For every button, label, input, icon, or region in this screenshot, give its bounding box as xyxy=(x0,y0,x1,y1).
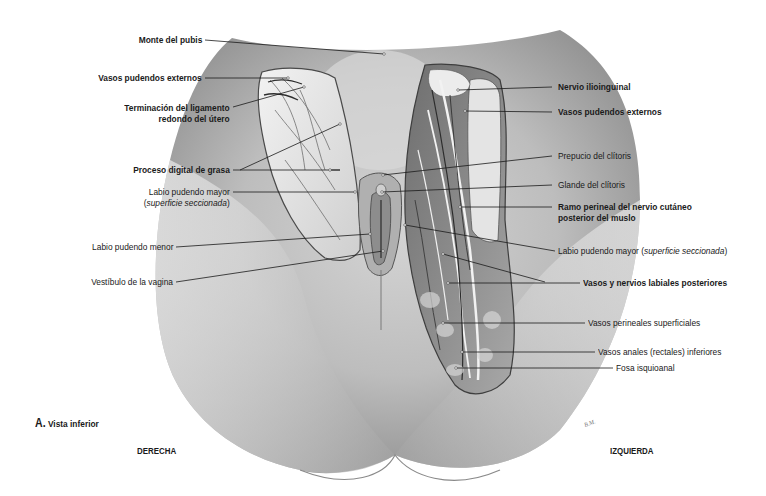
label-labio-menor: Labio pudendo menor xyxy=(92,241,173,252)
superficie-seccionada-text: superficie seccionada xyxy=(147,197,227,208)
label-prepucio: Prepucio del clítoris xyxy=(558,150,631,161)
label-proceso-digital: Proceso digital de grasa xyxy=(133,164,230,175)
label-vasos-nervios-labiales: Vasos y nervios labiales posteriores xyxy=(583,277,727,288)
figure-caption: A. Vista inferior xyxy=(35,416,99,430)
orientation-izquierda: IZQUIERDA xyxy=(610,446,654,456)
label-glande: Glande del clítoris xyxy=(558,179,625,190)
caption-letter: A. xyxy=(35,416,46,430)
caption-text: Vista inferior xyxy=(48,418,99,429)
labio-mayor-izq-text: Labio pudendo mayor ( xyxy=(558,245,644,256)
label-vasos-perineales: Vasos perineales superficiales xyxy=(588,317,700,328)
label-labio-mayor-derecha: Labio pudendo mayor (superficie secciona… xyxy=(144,186,230,208)
label-vasos-pudendos-externos-izquierda: Vasos pudendos externos xyxy=(558,106,662,117)
label-vasos-pudendos-externos-derecha: Vasos pudendos externos xyxy=(98,72,202,83)
label-monte-pubis: Monte del pubis xyxy=(138,34,202,45)
label-labio-mayor-der-line1: Labio pudendo mayor xyxy=(144,186,230,197)
orientation-derecha: DERECHA xyxy=(137,446,176,456)
label-ramo-line1: Ramo perineal del nervio cutáneo xyxy=(558,201,692,212)
paren-close: ) xyxy=(227,197,230,208)
label-ligamento-redondo: Terminación del ligamento redondo del út… xyxy=(125,102,230,124)
label-fosa-isquioanal: Fosa isquioanal xyxy=(616,362,675,373)
label-labio-mayor-der-line2: (superficie seccionada) xyxy=(144,197,230,208)
label-nervio-ilioinguinal: Nervio ilioinguinal xyxy=(558,81,630,92)
label-vestibulo: Vestíbulo de la vagina xyxy=(91,276,173,287)
label-vasos-anales: Vasos anales (rectales) inferiores xyxy=(598,346,721,357)
label-ligamento-line2: redondo del útero xyxy=(125,113,230,124)
label-ramo-perineal: Ramo perineal del nervio cutáneo posteri… xyxy=(558,201,692,223)
labio-mayor-izq-italic: superficie seccionada xyxy=(644,245,724,256)
artist-signature: B.M. xyxy=(583,418,596,428)
label-ramo-line2: posterior del muslo xyxy=(558,212,692,223)
label-ligamento-line1: Terminación del ligamento xyxy=(125,102,230,113)
labio-mayor-izq-close: ) xyxy=(724,245,727,256)
label-labio-mayor-izquierda: Labio pudendo mayor (superficie secciona… xyxy=(558,245,727,256)
